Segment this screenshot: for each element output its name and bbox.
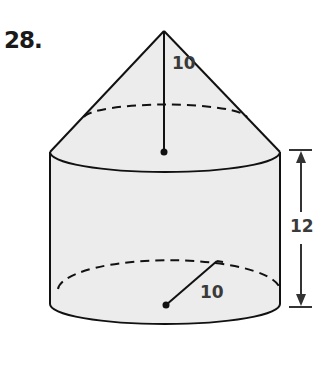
cylinder-radius-label: 10 xyxy=(200,282,224,302)
cylinder-radius-tick xyxy=(217,261,223,262)
cylinder-body xyxy=(50,152,280,324)
cylinder-base-center-dot xyxy=(163,302,170,309)
cylinder-height-label: 12 xyxy=(290,216,314,236)
cone-height-label: 10 xyxy=(172,53,196,73)
arrow-up-icon xyxy=(296,151,306,163)
cone-base-center-dot xyxy=(161,149,168,156)
arrow-down-icon xyxy=(296,294,306,306)
problem-number: 28. xyxy=(4,27,42,53)
cone-cylinder-figure xyxy=(0,0,329,366)
